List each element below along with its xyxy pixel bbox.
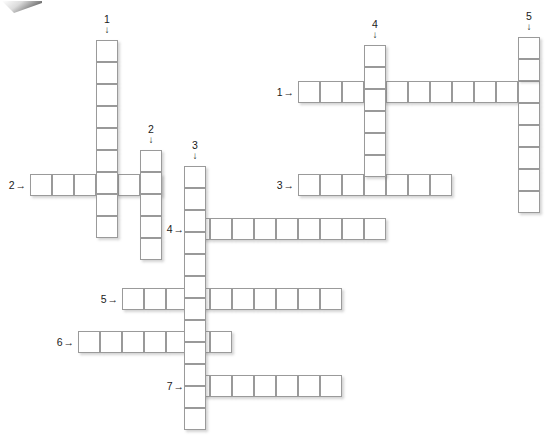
crossword-cell[interactable] [140, 216, 162, 238]
crossword-cell[interactable] [210, 331, 232, 353]
crossword-cell[interactable] [364, 111, 386, 133]
crossword-cell[interactable] [184, 276, 206, 298]
crossword-cell[interactable] [518, 169, 540, 191]
clue-number-text: 3 [277, 179, 283, 191]
crossword-cell[interactable] [184, 232, 206, 254]
crossword-cell[interactable] [320, 174, 342, 196]
crossword-cell[interactable] [184, 342, 206, 364]
clue-number-across-right-3[interactable]: 3→ [277, 180, 296, 191]
clue-number-down-right-5[interactable]: 5↓ [526, 11, 532, 31]
crossword-cell[interactable] [452, 81, 474, 103]
crossword-cell[interactable] [96, 106, 118, 128]
crossword-cell[interactable] [364, 133, 386, 155]
crossword-cell[interactable] [320, 375, 342, 397]
crossword-cell[interactable] [140, 150, 162, 172]
crossword-cell[interactable] [298, 375, 320, 397]
crossword-cell[interactable] [364, 155, 386, 177]
crossword-cell[interactable] [496, 81, 518, 103]
crossword-cell[interactable] [386, 81, 408, 103]
crossword-cell[interactable] [184, 254, 206, 276]
crossword-cell[interactable] [210, 288, 232, 310]
crossword-cell[interactable] [96, 128, 118, 150]
crossword-cell[interactable] [298, 174, 320, 196]
crossword-cell[interactable] [276, 218, 298, 240]
crossword-cell[interactable] [298, 288, 320, 310]
crossword-cell[interactable] [364, 45, 386, 67]
crossword-cell[interactable] [518, 81, 540, 103]
crossword-cell[interactable] [342, 81, 364, 103]
crossword-cell[interactable] [320, 288, 342, 310]
crossword-cell[interactable] [184, 408, 206, 430]
crossword-cell[interactable] [96, 84, 118, 106]
crossword-cell[interactable] [118, 174, 140, 196]
clue-number-across-left-5[interactable]: 5→ [101, 294, 120, 305]
crossword-cell[interactable] [74, 174, 96, 196]
crossword-cell[interactable] [140, 238, 162, 260]
crossword-cell[interactable] [232, 218, 254, 240]
crossword-cell[interactable] [320, 218, 342, 240]
crossword-cell[interactable] [30, 174, 52, 196]
crossword-cell[interactable] [210, 218, 232, 240]
crossword-cell[interactable] [276, 288, 298, 310]
crossword-cell[interactable] [518, 191, 540, 213]
clue-number-across-left-6[interactable]: 6→ [57, 337, 76, 348]
crossword-cell[interactable] [518, 37, 540, 59]
crossword-cell[interactable] [364, 89, 386, 111]
crossword-cell[interactable] [408, 81, 430, 103]
crossword-cell[interactable] [386, 174, 408, 196]
crossword-cell[interactable] [122, 288, 144, 310]
crossword-cell[interactable] [184, 386, 206, 408]
crossword-cell[interactable] [430, 174, 452, 196]
crossword-cell[interactable] [184, 188, 206, 210]
crossword-cell[interactable] [298, 81, 320, 103]
crossword-cell[interactable] [96, 150, 118, 172]
crossword-cell[interactable] [518, 125, 540, 147]
crossword-cell[interactable] [96, 216, 118, 238]
crossword-cell[interactable] [518, 147, 540, 169]
crossword-cell[interactable] [342, 218, 364, 240]
crossword-cell[interactable] [184, 210, 206, 232]
crossword-cell[interactable] [144, 331, 166, 353]
clue-number-across-left-2[interactable]: 2→ [9, 180, 28, 191]
crossword-cell[interactable] [96, 172, 118, 194]
clue-number-across-left-4[interactable]: 4→ [167, 224, 186, 235]
crossword-cell[interactable] [144, 288, 166, 310]
crossword-cell[interactable] [474, 81, 496, 103]
crossword-cell[interactable] [298, 218, 320, 240]
crossword-cell[interactable] [254, 375, 276, 397]
crossword-cell[interactable] [408, 174, 430, 196]
crossword-cell[interactable] [232, 375, 254, 397]
crossword-cell[interactable] [100, 331, 122, 353]
crossword-cell[interactable] [320, 81, 342, 103]
crossword-cell[interactable] [232, 288, 254, 310]
crossword-cell[interactable] [140, 172, 162, 194]
crossword-cell[interactable] [518, 59, 540, 81]
crossword-cell[interactable] [140, 194, 162, 216]
crossword-cell[interactable] [184, 298, 206, 320]
crossword-cell[interactable] [78, 331, 100, 353]
crossword-cell[interactable] [342, 174, 364, 196]
crossword-cell[interactable] [184, 320, 206, 342]
clue-number-across-right-1[interactable]: 1→ [277, 87, 296, 98]
crossword-cell[interactable] [52, 174, 74, 196]
clue-number-down-left-3[interactable]: 3↓ [192, 140, 198, 160]
crossword-cell[interactable] [254, 288, 276, 310]
crossword-cell[interactable] [210, 375, 232, 397]
crossword-cell[interactable] [364, 218, 386, 240]
crossword-cell[interactable] [184, 166, 206, 188]
clue-number-down-left-2[interactable]: 2↓ [148, 124, 154, 144]
crossword-cell[interactable] [254, 218, 276, 240]
crossword-cell[interactable] [518, 103, 540, 125]
clue-number-across-left-7[interactable]: 7→ [167, 381, 186, 392]
crossword-cell[interactable] [364, 174, 386, 196]
crossword-cell[interactable] [96, 40, 118, 62]
crossword-cell[interactable] [184, 364, 206, 386]
crossword-cell[interactable] [122, 331, 144, 353]
clue-number-down-right-4[interactable]: 4↓ [372, 19, 378, 39]
crossword-cell[interactable] [96, 62, 118, 84]
crossword-cell[interactable] [96, 194, 118, 216]
crossword-cell[interactable] [364, 67, 386, 89]
clue-number-down-left-1[interactable]: 1↓ [104, 14, 110, 34]
crossword-cell[interactable] [430, 81, 452, 103]
crossword-cell[interactable] [276, 375, 298, 397]
